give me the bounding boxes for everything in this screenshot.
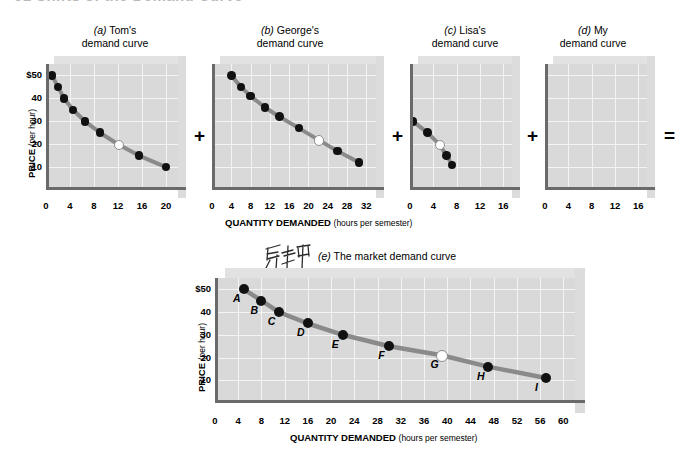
chart-panel-e: ABCDEFGHI bbox=[215, 268, 585, 413]
header-text: 51 Shifts of the Demand Curve bbox=[14, 0, 243, 4]
demand-curve-line bbox=[46, 64, 178, 190]
data-point bbox=[355, 158, 364, 167]
y-axis-label-e-sub: (per hour) bbox=[197, 323, 207, 360]
x-tick-label: 12 bbox=[107, 200, 129, 211]
data-point-label: F bbox=[378, 349, 384, 361]
gridline-vertical bbox=[592, 64, 593, 190]
data-point bbox=[227, 71, 236, 80]
x-tick-label: 0 bbox=[204, 415, 226, 426]
x-tick-label: 48 bbox=[483, 415, 505, 426]
x-axis-label-top-main: QUANTITY DEMANDED bbox=[225, 217, 331, 228]
data-point bbox=[60, 94, 69, 103]
panel-title-e: (e) The market demand curve bbox=[318, 250, 508, 263]
data-point-label: E bbox=[332, 338, 339, 350]
box-right-face-e bbox=[575, 268, 585, 413]
x-tick-label: 24 bbox=[343, 415, 365, 426]
x-tick-label: 36 bbox=[413, 415, 435, 426]
x-axis-c bbox=[410, 187, 520, 190]
data-point bbox=[423, 128, 432, 137]
x-axis-label-top-sub: (hours per semester) bbox=[334, 218, 413, 228]
data-point bbox=[275, 112, 284, 121]
x-tick-label: 0 bbox=[35, 200, 57, 211]
data-point bbox=[541, 373, 551, 383]
operator-plus-1: + bbox=[194, 126, 205, 145]
x-tick-label: 20 bbox=[155, 200, 177, 211]
x-tick-label: 12 bbox=[604, 200, 626, 211]
x-tick-label: 32 bbox=[390, 415, 412, 426]
x-tick-label: 8 bbox=[83, 200, 105, 211]
panel-title-b: (b) George's demand curve bbox=[235, 24, 345, 49]
x-tick-label: 8 bbox=[446, 200, 468, 211]
data-point-label: C bbox=[268, 315, 276, 327]
x-tick-label: 0 bbox=[399, 200, 421, 211]
chart-panel-c bbox=[410, 56, 520, 198]
x-tick-label: 4 bbox=[422, 200, 444, 211]
box-right-face-d bbox=[647, 56, 655, 198]
x-tick-label: 28 bbox=[367, 415, 389, 426]
y-axis-a bbox=[46, 64, 49, 190]
x-tick-label: 16 bbox=[297, 415, 319, 426]
y-tick-label: $50 bbox=[12, 69, 42, 80]
x-tick-label: 4 bbox=[227, 415, 249, 426]
gridline-vertical bbox=[615, 64, 616, 190]
gridline-vertical bbox=[568, 64, 569, 190]
operator-plus-2: + bbox=[392, 126, 403, 145]
panel-label-d: (d) bbox=[578, 24, 591, 36]
x-axis-d bbox=[545, 187, 655, 190]
panel-label-a: (a) bbox=[94, 24, 107, 36]
y-axis-d bbox=[545, 64, 548, 190]
panel-label-e: (e) bbox=[318, 250, 331, 262]
panel-title-a: (a) Tom's demand curve bbox=[60, 24, 170, 49]
page-header: 51 Shifts of the Demand Curve bbox=[0, 0, 682, 9]
x-tick-label: 40 bbox=[436, 415, 458, 426]
y-axis-c bbox=[410, 64, 413, 190]
panel-label-c: (c) bbox=[444, 24, 456, 36]
x-tick-label: 12 bbox=[274, 415, 296, 426]
panel-title-c: (c) Lisa's demand curve bbox=[410, 24, 520, 49]
x-tick-label: 20 bbox=[320, 415, 342, 426]
plot-area-a bbox=[46, 64, 178, 190]
y-axis-label-sub: (per hour) bbox=[27, 109, 37, 146]
box-right-face-c bbox=[512, 56, 520, 198]
y-axis-label-main: PRICE bbox=[26, 149, 37, 178]
data-point bbox=[135, 151, 144, 160]
gridline-horizontal bbox=[545, 98, 647, 99]
figure-root: 51 Shifts of the Demand Curve (a) Tom's … bbox=[0, 0, 682, 455]
x-tick-label: 12 bbox=[469, 200, 491, 211]
x-axis-label-e-sub: (hours per semester) bbox=[399, 433, 478, 443]
plot-area-d bbox=[545, 64, 647, 190]
data-point-label: H bbox=[477, 370, 485, 382]
data-point-label: A bbox=[233, 292, 241, 304]
x-tick-label: 8 bbox=[250, 415, 272, 426]
chart-panel-d bbox=[545, 56, 655, 198]
box-right-face-b bbox=[376, 56, 384, 198]
plot-area-e: ABCDEFGHI bbox=[215, 278, 575, 403]
data-point bbox=[333, 147, 342, 156]
y-axis-label-e: PRICE (per hour) bbox=[196, 323, 207, 392]
panel-title-d-line1: My bbox=[594, 24, 608, 36]
panel-title-a-line2: demand curve bbox=[82, 37, 149, 49]
gridline-vertical bbox=[638, 64, 639, 190]
panel-title-d-line2: demand curve bbox=[560, 37, 627, 49]
data-point-label: I bbox=[535, 381, 538, 393]
operator-equals: = bbox=[664, 126, 675, 145]
gridline-horizontal bbox=[545, 144, 647, 145]
panel-title-b-line2: demand curve bbox=[257, 37, 324, 49]
data-point-label: D bbox=[297, 326, 305, 338]
panel-title-c-line2: demand curve bbox=[432, 37, 499, 49]
x-tick-label: 44 bbox=[459, 415, 481, 426]
x-tick-label: 8 bbox=[581, 200, 603, 211]
x-tick-label: 56 bbox=[529, 415, 551, 426]
chart-panel-a bbox=[46, 56, 186, 198]
box-right-face-a bbox=[178, 56, 186, 198]
x-tick-label: 4 bbox=[59, 200, 81, 211]
y-axis-e bbox=[215, 278, 218, 403]
panel-title-c-line1: Lisa's bbox=[459, 24, 486, 36]
y-axis-label: PRICE (per hour) bbox=[26, 109, 37, 178]
gridline-horizontal bbox=[545, 121, 647, 122]
x-axis-b bbox=[212, 187, 384, 190]
y-tick-label: 40 bbox=[12, 92, 42, 103]
x-tick-label: 4 bbox=[557, 200, 579, 211]
data-point bbox=[81, 117, 90, 126]
demand-curve-line bbox=[410, 64, 512, 190]
